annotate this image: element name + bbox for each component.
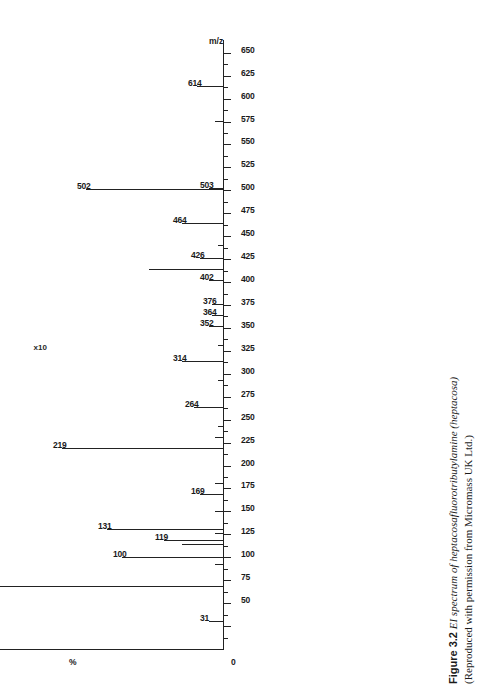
- figure-title: EI spectrum of heptacosafluorotributylam…: [447, 377, 459, 630]
- axis-tick: [224, 167, 231, 168]
- peak-label: 376: [203, 296, 217, 306]
- axis-tick-minor: [224, 362, 228, 363]
- percent-0-label: 0: [231, 657, 236, 667]
- axis-tick-label: 75: [241, 572, 250, 582]
- figure-credit: (Reproduced with permission from Microma…: [462, 435, 474, 684]
- peak-bar: [218, 426, 224, 427]
- axis-tick: [224, 488, 231, 489]
- axis-tick: [224, 603, 231, 604]
- peak-bar: [107, 529, 224, 530]
- peak-bar: [215, 121, 224, 122]
- axis-tick-label: 275: [241, 389, 255, 399]
- axis-tick-label: 425: [241, 251, 255, 261]
- axis-tick-minor: [224, 408, 228, 409]
- scale-multiplier-note: x10: [34, 343, 47, 352]
- axis-tick-label: 325: [241, 343, 255, 353]
- axis-tick: [224, 580, 231, 581]
- axis-tick-minor: [224, 569, 228, 570]
- axis-tick-label: 450: [241, 228, 255, 238]
- intensity-axis-line: [0, 649, 224, 650]
- percent-axis-title: %: [69, 657, 77, 667]
- axis-tick-minor: [224, 87, 228, 88]
- figure-number: Figure 3.2: [447, 632, 459, 684]
- axis-tick-label: 500: [241, 182, 255, 192]
- axis-tick-minor: [224, 385, 228, 386]
- axis-tick: [224, 534, 231, 535]
- axis-tick-label: 475: [241, 205, 255, 215]
- axis-tick-minor: [224, 523, 228, 524]
- peak-label: 502: [77, 181, 91, 191]
- axis-tick: [224, 443, 231, 444]
- peak-label: 169: [191, 486, 205, 496]
- peak-bar: [122, 557, 224, 558]
- axis-tick: [224, 99, 231, 100]
- peak-bar: [164, 540, 224, 541]
- axis-tick-label: 400: [241, 274, 255, 284]
- axis-tick: [224, 511, 231, 512]
- axis-tick-minor: [224, 156, 228, 157]
- axis-tick-label: 225: [241, 435, 255, 445]
- axis-tick: [224, 351, 231, 352]
- axis-tick-label: 350: [241, 320, 255, 330]
- peak-bar: [215, 533, 224, 534]
- peak-bar: [215, 437, 224, 438]
- axis-tick-minor: [224, 431, 228, 432]
- axis-tick-label: 550: [241, 137, 255, 147]
- axis-tick: [224, 236, 231, 237]
- axis-tick: [224, 282, 231, 283]
- peak-label: 314: [173, 353, 187, 363]
- axis-tick-label: 175: [241, 480, 255, 490]
- axis-tick-label: 100: [241, 549, 255, 559]
- axis-tick-minor: [224, 615, 228, 616]
- axis-tick-minor: [224, 500, 228, 501]
- peak-label: 464: [173, 215, 187, 225]
- peak-label: 614: [188, 78, 202, 88]
- axis-tick-label: 575: [241, 114, 255, 124]
- peak-bar: [182, 223, 224, 224]
- axis-tick-label: 200: [241, 458, 255, 468]
- peak-bar: [218, 245, 224, 246]
- axis-tick-minor: [224, 592, 228, 593]
- peak-label: 402: [200, 272, 214, 282]
- peak-bar: [215, 564, 224, 565]
- axis-tick-label: 150: [241, 503, 255, 513]
- peak-label: 119: [155, 532, 168, 542]
- mz-axis-title: m/z: [209, 36, 223, 46]
- axis-tick: [224, 557, 231, 558]
- axis-tick-minor: [224, 110, 228, 111]
- axis-tick-label: 625: [241, 68, 255, 78]
- peak-label: 352: [200, 318, 214, 328]
- axis-tick: [224, 122, 231, 123]
- axis-tick-label: 125: [241, 526, 255, 536]
- axis-tick-minor: [224, 638, 228, 639]
- peak-bar: [0, 586, 224, 587]
- peak-bar: [215, 483, 224, 484]
- axis-tick-minor: [224, 477, 228, 478]
- axis-tick-minor: [224, 546, 228, 547]
- axis-tick: [224, 76, 231, 77]
- axis-tick-minor: [224, 225, 228, 226]
- axis-tick-label: 600: [241, 91, 255, 101]
- axis-tick-minor: [224, 271, 228, 272]
- axis-tick: [224, 397, 231, 398]
- axis-tick: [224, 305, 231, 306]
- figure-container: 5075100125150175200225250275300325350375…: [0, 0, 309, 696]
- peak-bar: [209, 621, 224, 622]
- axis-tick-minor: [224, 202, 228, 203]
- peak-label: 131: [98, 521, 112, 531]
- axis-tick-minor: [224, 64, 228, 65]
- axis-tick: [224, 213, 231, 214]
- axis-tick: [224, 190, 231, 191]
- axis-tick-label: 650: [241, 45, 255, 55]
- peak-bar: [62, 448, 224, 449]
- axis-tick-minor: [224, 248, 228, 249]
- axis-tick: [224, 259, 231, 260]
- peak-label: 426: [191, 250, 205, 260]
- axis-tick-minor: [224, 294, 228, 295]
- peak-label: 31: [200, 613, 209, 623]
- axis-tick-minor: [224, 179, 228, 180]
- axis-tick-minor: [224, 133, 228, 134]
- peak-label: 503: [200, 180, 214, 190]
- peak-bar: [182, 361, 224, 362]
- axis-tick: [224, 374, 231, 375]
